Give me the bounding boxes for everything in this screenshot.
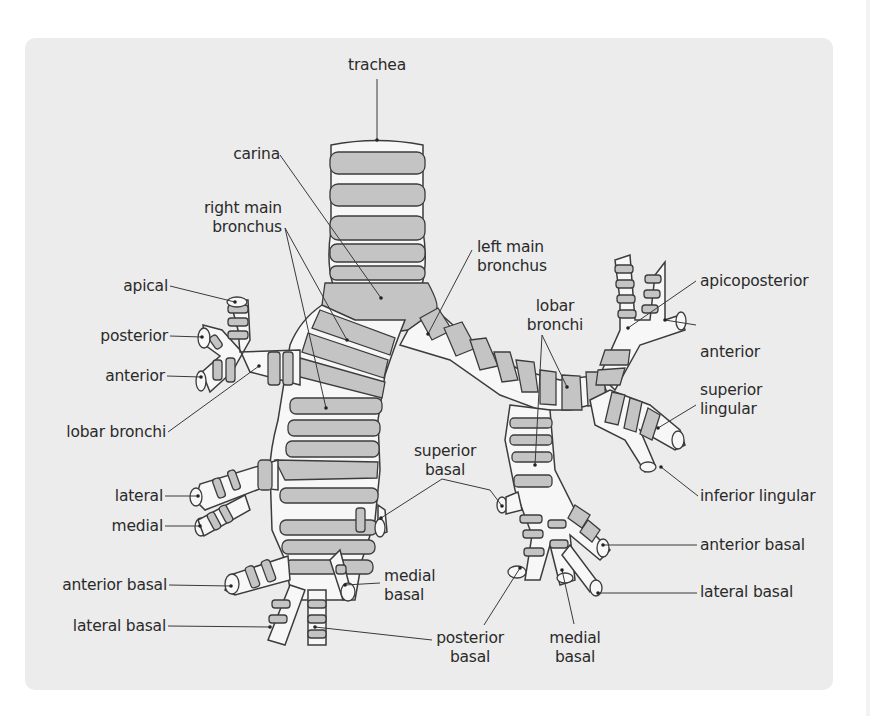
left-upper-lobe-branches-shape bbox=[596, 255, 686, 390]
left-lower-lobe-branches-shape bbox=[497, 405, 610, 596]
label-superior-basal: superior basal bbox=[405, 442, 485, 480]
label-left-lateral-basal: lateral basal bbox=[700, 583, 793, 602]
label-trachea: trachea bbox=[347, 56, 407, 75]
label-carina: carina bbox=[200, 145, 280, 164]
label-right-lateral-basal: lateral basal bbox=[30, 617, 166, 636]
label-right-lateral: lateral bbox=[70, 487, 163, 506]
label-right-lobar-bronchi: lobar bronchi bbox=[30, 423, 166, 442]
label-right-anterior: anterior bbox=[70, 367, 165, 386]
label-right-main-bronchus: right main bronchus bbox=[170, 199, 282, 237]
label-right-anterior-basal: anterior basal bbox=[30, 576, 167, 595]
label-left-anterior-basal: anterior basal bbox=[700, 536, 805, 555]
right-upper-lobe-bronchus-shape bbox=[196, 297, 300, 392]
label-left-lobar-bronchi: lobar bronchi bbox=[520, 297, 590, 335]
trachea-shape bbox=[322, 141, 437, 332]
label-right-apical: apical bbox=[70, 277, 168, 296]
label-right-posterior: posterior bbox=[70, 327, 168, 346]
label-left-main-bronchus: left main bronchus bbox=[477, 238, 547, 276]
label-right-medial-basal: medial basal bbox=[384, 567, 435, 605]
label-apicoposterior: apicoposterior bbox=[700, 272, 808, 291]
label-posterior-basal: posterior basal bbox=[430, 629, 510, 667]
right-middle-lobe-bronchus-shape bbox=[190, 460, 278, 536]
label-superior-lingular: superior lingular bbox=[700, 381, 762, 419]
label-right-medial: medial bbox=[70, 517, 163, 536]
label-inferior-lingular: inferior lingular bbox=[700, 487, 815, 506]
label-left-anterior: anterior bbox=[700, 343, 760, 362]
label-left-medial-basal: medial basal bbox=[535, 629, 615, 667]
lingula-branches-shape bbox=[590, 390, 685, 472]
